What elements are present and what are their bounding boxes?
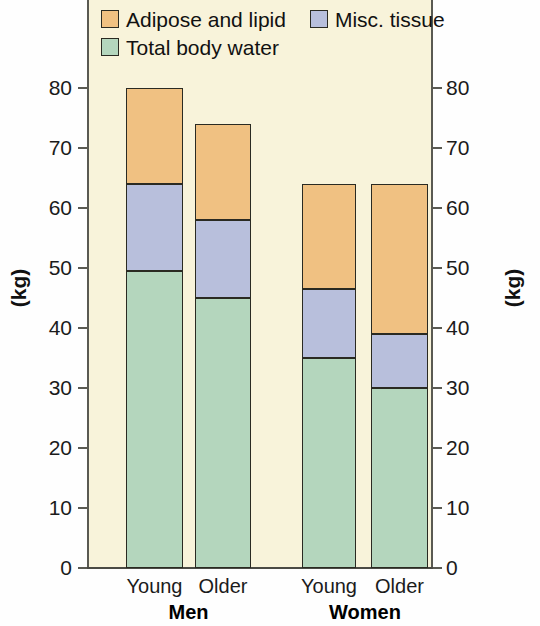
bar-segment-water: [126, 271, 183, 568]
x-tick-label: Older: [181, 575, 265, 598]
legend-label-adipose: Adipose and lipid: [126, 9, 286, 30]
y-tick-right: [433, 327, 442, 329]
y-tick-label-left: 60: [12, 197, 72, 218]
y-tick-label-right: 0: [446, 557, 506, 578]
y-tick-label-left: 20: [12, 437, 72, 458]
y-tick-right: [433, 567, 442, 569]
y-tick-label-left: 40: [12, 317, 72, 338]
y-tick-left: [78, 267, 87, 269]
y-tick-label-right: 10: [446, 497, 506, 518]
legend-item-misc: Misc. tissue: [310, 9, 445, 30]
y-tick-left: [78, 87, 87, 89]
bar-segment-water: [195, 298, 251, 568]
legend-swatch-misc-icon: [310, 10, 328, 28]
bar-segment-adipose: [195, 124, 251, 220]
y-tick-label-left: 10: [12, 497, 72, 518]
bar-men-young: [126, 0, 183, 568]
y-tick-label-right: 30: [446, 377, 506, 398]
x-tick-label: Older: [357, 575, 442, 598]
x-group-label: Women: [295, 601, 435, 624]
bar-women-young: [302, 0, 356, 568]
y-tick-right: [433, 387, 442, 389]
y-tick-label-left: 0: [12, 557, 72, 578]
bar-segment-adipose: [302, 184, 356, 289]
y-tick-left: [78, 447, 87, 449]
y-tick-label-left: 30: [12, 377, 72, 398]
bar-segment-misc: [371, 334, 428, 388]
y-tick-label-right: 60: [446, 197, 506, 218]
chart-figure: YoungOlderYoungOlder MenWomen (kg) (kg) …: [0, 0, 540, 626]
x-group-label: Men: [119, 601, 259, 624]
y-tick-label-right: 50: [446, 257, 506, 278]
bar-segment-water: [371, 388, 428, 568]
y-tick-label-right: 80: [446, 77, 506, 98]
legend-label-misc: Misc. tissue: [335, 9, 445, 30]
legend-swatch-water-icon: [101, 38, 119, 56]
legend-item-water: Total body water: [101, 37, 279, 58]
y-tick-right: [433, 507, 442, 509]
bar-segment-misc: [195, 220, 251, 298]
y-tick-label-right: 70: [446, 137, 506, 158]
y-tick-left: [78, 147, 87, 149]
y-tick-left: [78, 327, 87, 329]
y-tick-right: [433, 87, 442, 89]
bar-men-older: [195, 0, 251, 568]
chart-legend: Adipose and lipid Misc. tissue Total bod…: [101, 5, 431, 61]
y-tick-label-right: 20: [446, 437, 506, 458]
legend-label-water: Total body water: [126, 37, 279, 58]
y-tick-left: [78, 207, 87, 209]
y-tick-label-right: 40: [446, 317, 506, 338]
y-tick-right: [433, 147, 442, 149]
y-tick-left: [78, 507, 87, 509]
legend-row-2: Total body water: [101, 33, 431, 61]
y-tick-label-left: 70: [12, 137, 72, 158]
legend-row-1: Adipose and lipid Misc. tissue: [101, 5, 431, 33]
legend-item-adipose: Adipose and lipid: [101, 9, 286, 30]
bar-women-older: [371, 0, 428, 568]
bar-segment-adipose: [371, 184, 428, 334]
y-tick-label-left: 80: [12, 77, 72, 98]
y-tick-right: [433, 207, 442, 209]
bar-segment-misc: [126, 184, 183, 271]
y-tick-right: [433, 447, 442, 449]
bar-segment-adipose: [126, 88, 183, 184]
bar-segment-water: [302, 358, 356, 568]
legend-swatch-adipose-icon: [101, 10, 119, 28]
y-tick-right: [433, 267, 442, 269]
y-axis-left: [87, 0, 89, 569]
y-axis-right: [431, 0, 433, 569]
y-tick-left: [78, 387, 87, 389]
y-tick-label-left: 50: [12, 257, 72, 278]
bar-segment-misc: [302, 289, 356, 358]
y-tick-left: [78, 567, 87, 569]
